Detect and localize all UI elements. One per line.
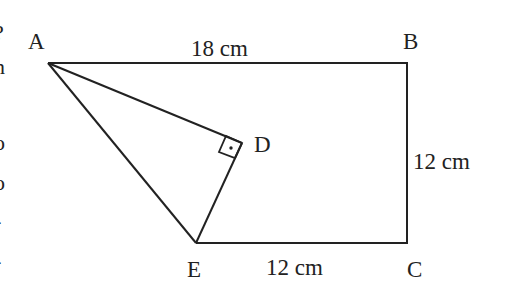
vertex-label-a: A (28, 30, 45, 53)
vertex-label-b: B (403, 30, 418, 53)
edge-ae (48, 63, 196, 243)
measure-ec: 12 cm (266, 256, 323, 279)
right-angle-dot (229, 146, 232, 149)
vertex-label-e: E (187, 258, 201, 281)
edge-ad (48, 63, 242, 143)
vertex-label-d: D (254, 133, 271, 156)
measure-bc: 12 cm (413, 150, 470, 173)
vertex-label-c: C (407, 258, 422, 281)
edge-ab (48, 63, 407, 243)
measure-ab: 18 cm (191, 37, 248, 60)
